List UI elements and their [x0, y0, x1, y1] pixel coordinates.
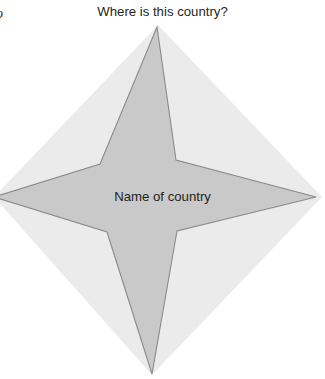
four-pointed-star-shape: [0, 27, 316, 374]
country-star-diagram: [0, 0, 325, 379]
figure-page: o Where is this country? Name of country: [0, 0, 325, 379]
